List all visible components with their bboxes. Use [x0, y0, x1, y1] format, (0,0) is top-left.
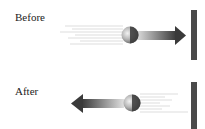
before-panel: Before: [0, 0, 205, 64]
right-arrow-icon: [136, 26, 186, 45]
left-arrow-icon: [71, 94, 124, 113]
wall: [191, 82, 197, 129]
after-panel: After: [0, 64, 205, 129]
motion-lines: [60, 26, 123, 44]
after-diagram: [0, 64, 205, 129]
wall: [191, 10, 197, 60]
before-diagram: [0, 0, 205, 64]
ball-icon: [124, 95, 141, 112]
ball-icon: [122, 27, 139, 44]
motion-lines: [140, 94, 188, 112]
